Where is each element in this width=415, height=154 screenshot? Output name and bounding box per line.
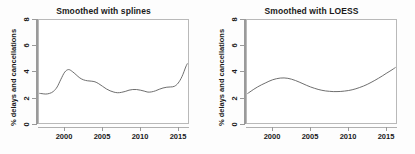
y-tick-label-4-loess: 4 <box>228 67 240 76</box>
y-tick-4-splines <box>32 71 37 72</box>
x-tick-label-2010-loess: 2010 <box>333 132 363 141</box>
plot-svg-loess <box>247 20 396 123</box>
chart-panel-loess: Smoothed with LOESS % delays and cancell… <box>208 0 415 154</box>
plot-svg-splines <box>39 20 188 123</box>
data-curve-splines <box>40 64 187 94</box>
x-tick-2015-loess <box>386 127 387 131</box>
y-tick-label-2-splines: 2 <box>20 94 32 103</box>
x-tick-2000-loess <box>272 127 273 131</box>
y-tick-8-loess <box>240 19 245 20</box>
y-tick-label-2-loess: 2 <box>228 94 240 103</box>
y-tick-label-8-splines: 8 <box>20 15 32 24</box>
x-tick-2005-splines <box>102 127 103 131</box>
y-tick-4-loess <box>240 71 245 72</box>
x-axis-line-loess <box>246 127 397 128</box>
data-curve-loess <box>248 68 395 94</box>
plot-area-loess <box>246 19 397 124</box>
y-axis-label-text-loess: % delays and cancellations <box>218 28 227 125</box>
y-tick-label-0-loess: 0 <box>228 120 240 129</box>
x-tick-2000-splines <box>64 127 65 131</box>
x-tick-2015-splines <box>178 127 179 131</box>
x-tick-label-2000-loess: 2000 <box>257 132 287 141</box>
figure-two-panel-smoothers: Smoothed with splines % delays and cance… <box>0 0 415 154</box>
y-tick-label-0-splines: 0 <box>20 120 32 129</box>
y-tick-label-6-loess: 6 <box>228 41 240 50</box>
y-tick-8-splines <box>32 19 37 20</box>
y-tick-0-splines <box>32 124 37 125</box>
y-axis-label-loess: % delays and cancellations <box>215 0 229 154</box>
chart-panel-splines: Smoothed with splines % delays and cance… <box>0 0 207 154</box>
x-tick-label-2015-splines: 2015 <box>163 132 193 141</box>
y-tick-label-4-splines: 4 <box>20 67 32 76</box>
y-axis-label-text-splines: % delays and cancellations <box>10 28 19 125</box>
y-tick-2-splines <box>32 98 37 99</box>
y-axis-label-splines: % delays and cancellations <box>7 0 21 154</box>
y-tick-0-loess <box>240 124 245 125</box>
plot-area-splines <box>38 19 189 124</box>
y-tick-2-loess <box>240 98 245 99</box>
x-tick-label-2000-splines: 2000 <box>49 132 79 141</box>
y-tick-label-8-loess: 8 <box>228 15 240 24</box>
y-tick-6-loess <box>240 45 245 46</box>
x-tick-2005-loess <box>310 127 311 131</box>
x-tick-label-2015-loess: 2015 <box>371 132 401 141</box>
x-tick-label-2005-splines: 2005 <box>87 132 117 141</box>
x-tick-2010-splines <box>140 127 141 131</box>
y-tick-label-6-splines: 6 <box>20 41 32 50</box>
y-tick-6-splines <box>32 45 37 46</box>
x-tick-label-2005-loess: 2005 <box>295 132 325 141</box>
x-tick-label-2010-splines: 2010 <box>125 132 155 141</box>
x-tick-2010-loess <box>348 127 349 131</box>
x-axis-line-splines <box>38 127 189 128</box>
